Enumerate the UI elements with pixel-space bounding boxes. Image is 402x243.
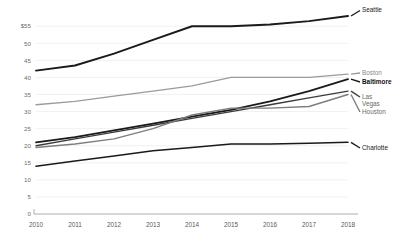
x-tick-label: 2014 bbox=[185, 221, 200, 228]
y-tick-label: 5 bbox=[28, 193, 32, 200]
series-label-seattle: Seattle bbox=[362, 6, 382, 13]
y-tick-label: 10 bbox=[24, 176, 31, 183]
line-chart: 05101520253035404550$55 2010201120122013… bbox=[0, 0, 402, 243]
x-tick-label: 2013 bbox=[146, 221, 161, 228]
y-tick-label: 20 bbox=[24, 142, 31, 149]
x-tick-label: 2015 bbox=[224, 221, 239, 228]
y-tick-label: 30 bbox=[24, 108, 31, 115]
x-tick-label: 2018 bbox=[341, 221, 356, 228]
series-label-charlotte: Charlotte bbox=[362, 144, 388, 151]
chart-background bbox=[0, 0, 402, 243]
series-label-houston: Houston bbox=[362, 108, 386, 115]
x-tick-label: 2012 bbox=[107, 221, 122, 228]
x-tick-label: 2017 bbox=[302, 221, 317, 228]
y-tick-label: $55 bbox=[21, 22, 32, 29]
y-tick-label: 40 bbox=[24, 74, 31, 81]
x-axis-tick-labels: 201020112012201320142015201620172018 bbox=[29, 221, 356, 228]
y-tick-label: 45 bbox=[24, 57, 31, 64]
y-tick-label: 25 bbox=[24, 125, 31, 132]
series-label-lasvegas: Vegas bbox=[362, 100, 380, 108]
series-label-lasvegas: Las bbox=[362, 93, 372, 100]
chart-canvas: 05101520253035404550$55 2010201120122013… bbox=[0, 0, 402, 243]
y-tick-label: 50 bbox=[24, 40, 31, 47]
y-tick-label: 35 bbox=[24, 91, 31, 98]
x-tick-label: 2016 bbox=[263, 221, 278, 228]
y-tick-label: 0 bbox=[28, 210, 32, 217]
x-tick-label: 2010 bbox=[29, 221, 44, 228]
x-tick-label: 2011 bbox=[68, 221, 82, 228]
series-label-baltimore: Baltimore bbox=[362, 78, 392, 85]
y-tick-label: 15 bbox=[24, 159, 31, 166]
series-label-boston: Boston bbox=[362, 69, 382, 76]
